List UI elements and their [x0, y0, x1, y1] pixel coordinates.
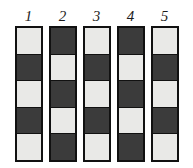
column-label-5: 5 — [151, 6, 179, 26]
cell-2-2 — [51, 55, 75, 82]
cell-3-5 — [85, 134, 109, 160]
checkerboard-columns-figure: 1 2 3 — [0, 0, 193, 168]
column-4: 4 — [117, 6, 145, 162]
cell-4-4 — [119, 108, 143, 135]
cell-5-4 — [153, 108, 177, 135]
cell-2-1 — [51, 28, 75, 55]
cell-4-2 — [119, 55, 143, 82]
column-strip-4 — [117, 26, 145, 162]
cell-4-3 — [119, 81, 143, 108]
column-label-4: 4 — [117, 6, 145, 26]
column-2: 2 — [49, 6, 77, 162]
column-label-1: 1 — [15, 6, 43, 26]
column-strip-5 — [151, 26, 179, 162]
cell-1-5 — [17, 134, 41, 160]
cell-5-3 — [153, 81, 177, 108]
column-strip-2 — [49, 26, 77, 162]
cell-2-3 — [51, 81, 75, 108]
cell-3-1 — [85, 28, 109, 55]
cell-5-2 — [153, 55, 177, 82]
cell-1-4 — [17, 108, 41, 135]
cell-5-1 — [153, 28, 177, 55]
column-3: 3 — [83, 6, 111, 162]
cell-1-1 — [17, 28, 41, 55]
cell-2-4 — [51, 108, 75, 135]
cell-1-3 — [17, 81, 41, 108]
column-label-2: 2 — [49, 6, 77, 26]
column-label-3: 3 — [83, 6, 111, 26]
columns-container: 1 2 3 — [0, 0, 193, 168]
cell-3-2 — [85, 55, 109, 82]
column-strip-1 — [15, 26, 43, 162]
cell-5-5 — [153, 134, 177, 160]
cell-4-1 — [119, 28, 143, 55]
cell-2-5 — [51, 134, 75, 160]
column-strip-3 — [83, 26, 111, 162]
column-1: 1 — [15, 6, 43, 162]
cell-1-2 — [17, 55, 41, 82]
cell-4-5 — [119, 134, 143, 160]
cell-3-4 — [85, 108, 109, 135]
column-5: 5 — [151, 6, 179, 162]
cell-3-3 — [85, 81, 109, 108]
